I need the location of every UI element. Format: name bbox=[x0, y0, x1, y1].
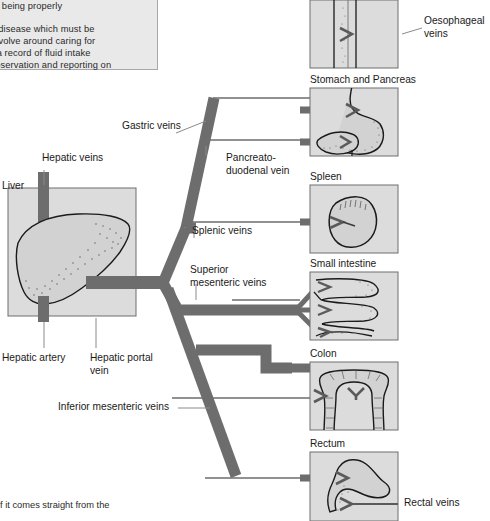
panel-oesophagus bbox=[310, 0, 398, 72]
panel-rectum bbox=[310, 452, 398, 521]
text-line-4: oing a record of fluid intake bbox=[0, 48, 91, 58]
panel-spleen bbox=[310, 185, 398, 253]
label-inferior-mesenteric-veins: Inferior mesenteric veins bbox=[58, 401, 169, 413]
label-superior-mesenteric-line1: Superior bbox=[190, 264, 229, 276]
panel-small-intestine bbox=[310, 272, 398, 340]
panel-colon bbox=[310, 362, 398, 434]
caption-spleen: Spleen bbox=[310, 171, 342, 182]
label-hepatic-artery: Hepatic artery bbox=[2, 352, 65, 364]
label-splenic-veins: Splenic veins bbox=[192, 225, 252, 237]
caption-small-intestine: Small intestine bbox=[310, 258, 376, 269]
liver-panel bbox=[8, 172, 136, 322]
label-hepatic-portal-vein-line1: Hepatic portal bbox=[90, 352, 153, 364]
bottom-cropped-text: f it comes straight from the bbox=[0, 500, 110, 510]
text-line-2: lying disease which must be bbox=[0, 24, 94, 34]
label-pancreatoduodenal-line2: duodenal vein bbox=[226, 165, 289, 177]
lower-branch-vessels bbox=[163, 283, 300, 476]
portal-vein-trunk bbox=[86, 276, 168, 289]
cropped-text-block: e not being properly lying disease which… bbox=[0, 0, 158, 70]
label-pancreatoduodenal-line1: Pancreato- bbox=[226, 152, 276, 164]
caption-stomach-pancreas: Stomach and Pancreas bbox=[310, 74, 416, 85]
text-line-3: ons revolve around caring for bbox=[0, 36, 95, 46]
label-liver: Liver bbox=[2, 180, 24, 192]
label-oesophageal-veins-line1: Oesophageal bbox=[424, 15, 485, 27]
caption-colon: Colon bbox=[310, 348, 337, 359]
hepatic-artery-stub bbox=[38, 296, 49, 322]
label-superior-mesenteric-line2: mesenteric veins bbox=[190, 277, 266, 289]
caption-rectum: Rectum bbox=[310, 438, 345, 449]
label-hepatic-portal-vein-line2: vein bbox=[90, 365, 109, 377]
diagram-artwork bbox=[0, 0, 490, 521]
panel-stomach-pancreas bbox=[310, 86, 398, 158]
text-line-1: e not being properly bbox=[0, 1, 62, 11]
text-line-5: observation and reporting on bbox=[0, 60, 111, 70]
label-rectal-veins: Rectal veins bbox=[404, 497, 460, 509]
label-hepatic-veins: Hepatic veins bbox=[42, 152, 103, 164]
label-oesophageal-veins-line2: veins bbox=[424, 28, 448, 40]
label-gastric-veins: Gastric veins bbox=[122, 120, 181, 132]
spleen-shape bbox=[329, 197, 376, 247]
portal-vein-diagram-page: e not being properly lying disease which… bbox=[0, 0, 490, 521]
